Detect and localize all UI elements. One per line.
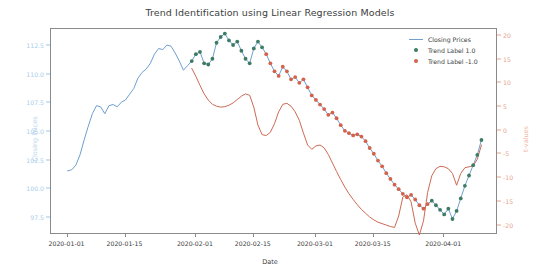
legend-item[interactable]: Trend Label -1.0	[408, 56, 492, 66]
trend-up-marker	[471, 163, 475, 167]
legend-label: Closing Prices	[428, 36, 471, 43]
trend-down-marker	[405, 195, 409, 199]
trend-up-marker	[219, 35, 223, 39]
trend-down-marker	[409, 193, 413, 197]
x-axis-tick-label: 2020-01-15	[95, 240, 155, 247]
trend-down-marker	[368, 146, 372, 150]
trend-down-marker	[281, 65, 285, 69]
y-axis-left-tick-label: 100.0	[10, 185, 44, 192]
y-axis-left-tick-label: 112.5	[10, 42, 44, 49]
trend-down-marker	[388, 177, 392, 181]
trend-up-marker	[194, 52, 198, 56]
trend-down-marker	[273, 69, 277, 73]
trend-down-marker	[339, 123, 343, 127]
trend-up-marker	[239, 49, 243, 53]
trend-down-marker	[310, 93, 314, 97]
trend-up-marker	[190, 59, 194, 63]
trend-up-marker	[475, 153, 479, 157]
trend-up-marker	[446, 207, 450, 211]
trend-down-marker	[264, 52, 268, 56]
trend-up-marker	[223, 32, 227, 36]
trend-up-marker	[463, 184, 467, 188]
legend-marker-swatch	[408, 56, 424, 66]
legend-line-swatch	[408, 34, 424, 44]
trend-down-marker	[426, 202, 430, 206]
trend-down-marker	[360, 135, 364, 139]
trend-up-marker	[467, 174, 471, 178]
chart-figure: Trend Identification using Linear Regres…	[0, 0, 540, 277]
trend-down-marker	[355, 132, 359, 136]
legend-item[interactable]: Trend Label 1.0	[408, 45, 492, 55]
trend-up-marker	[260, 45, 264, 49]
trend-up-marker	[215, 41, 219, 45]
legend-item[interactable]: Closing Prices	[408, 34, 492, 44]
trend-down-marker	[285, 69, 289, 73]
trend-down-marker	[318, 103, 322, 107]
y-axis-right-tick-label: -5	[503, 150, 533, 157]
trend-up-marker	[252, 47, 256, 51]
trend-down-marker	[289, 77, 293, 81]
trend-down-marker	[343, 129, 347, 133]
trend-down-marker	[351, 134, 355, 138]
trend-down-marker	[417, 203, 421, 207]
trend-down-marker	[347, 131, 351, 135]
y-axis-right-tick-label: 10	[503, 79, 533, 86]
trend-up-marker	[438, 208, 442, 212]
trend-up-marker	[442, 213, 446, 217]
y-axis-right-tick-label: 20	[503, 32, 533, 39]
trend-down-marker	[322, 107, 326, 111]
y-axis-left-tick-label: 97.5	[10, 213, 44, 220]
t-values-line	[192, 68, 482, 235]
y-axis-right-tick-label: 0	[503, 126, 533, 133]
trend-down-marker	[268, 61, 272, 65]
trend-down-marker	[372, 152, 376, 156]
trend-up-marker	[211, 57, 215, 61]
trend-down-marker	[331, 111, 335, 115]
trend-up-marker	[248, 61, 252, 65]
trend-up-marker	[455, 209, 459, 213]
trend-down-marker	[397, 187, 401, 191]
x-axis-tick-label: 2020-03-15	[343, 240, 403, 247]
x-axis-tick-label: 2020-04-01	[413, 240, 473, 247]
trend-up-marker	[480, 138, 484, 142]
legend-line-icon	[409, 39, 423, 40]
y-axis-right-tick-label: -10	[503, 174, 533, 181]
trend-down-marker	[376, 159, 380, 163]
trend-down-marker	[364, 139, 368, 143]
y-axis-right-tick-label: 5	[503, 103, 533, 110]
y-axis-left-tick-label: 105.0	[10, 128, 44, 135]
x-axis-label: Date	[0, 258, 540, 266]
legend-dot-icon	[414, 48, 418, 52]
trend-down-marker	[413, 198, 417, 202]
trend-up-marker	[235, 40, 239, 44]
y-axis-left-tick-label: 110.0	[10, 70, 44, 77]
trend-down-marker	[393, 183, 397, 187]
legend-dot-icon	[414, 59, 418, 63]
trend-down-marker	[314, 98, 318, 102]
y-axis-right-tick-label: -15	[503, 197, 533, 204]
x-axis-tick-label: 2020-02-01	[165, 240, 225, 247]
trend-up-marker	[434, 203, 438, 207]
trend-down-marker	[297, 81, 301, 85]
trend-down-marker	[380, 164, 384, 168]
legend-label: Trend Label 1.0	[428, 47, 475, 54]
trend-up-marker	[206, 63, 210, 67]
trend-down-marker	[335, 116, 339, 120]
y-axis-right-tick-label: -20	[503, 221, 533, 228]
y-axis-right-tick-label: 15	[503, 55, 533, 62]
y-axis-left-tick-label: 107.5	[10, 99, 44, 106]
chart-legend: Closing PricesTrend Label 1.0Trend Label…	[404, 31, 496, 70]
trend-down-marker	[302, 77, 306, 81]
trend-up-marker	[459, 196, 463, 200]
legend-label: Trend Label -1.0	[428, 58, 478, 65]
trend-up-marker	[430, 199, 434, 203]
trend-up-marker	[202, 61, 206, 65]
x-axis-tick-label: 2020-03-01	[285, 240, 345, 247]
trend-down-marker	[422, 207, 426, 211]
x-axis-tick-label: 2020-02-15	[223, 240, 283, 247]
trend-up-marker	[256, 40, 260, 44]
trend-down-marker	[401, 192, 405, 196]
trend-up-marker	[227, 39, 231, 43]
trend-down-marker	[277, 74, 281, 78]
trend-up-marker	[231, 43, 235, 47]
